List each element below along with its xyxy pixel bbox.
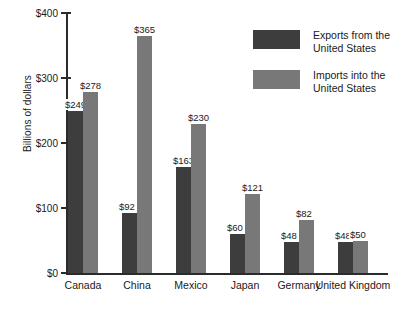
bar-value-label: $82	[295, 208, 313, 219]
bar-imports	[83, 92, 98, 273]
legend-label-exports: Exports from the United States	[313, 29, 395, 54]
y-tick-label: $200	[36, 138, 58, 149]
y-tick-label: $300	[36, 73, 58, 84]
bar-imports	[191, 124, 206, 274]
bar-group: $249$278	[68, 13, 98, 273]
bar-value-label: $60	[226, 222, 244, 233]
y-tick-label: $400	[36, 8, 58, 19]
category-label: United Kingdom	[315, 279, 391, 292]
bar-group: $92$365	[122, 13, 152, 273]
legend-label-imports: Imports into the United States	[313, 69, 395, 94]
bar-value-label: $121	[241, 182, 264, 193]
bar-exports	[176, 167, 191, 273]
legend-swatch-imports	[253, 70, 300, 89]
bar-group: $163$230	[176, 13, 206, 273]
bar-imports	[299, 220, 314, 273]
bar-value-label: $278	[79, 80, 102, 91]
y-tick-label: $100	[36, 203, 58, 214]
legend-swatch-exports	[253, 30, 300, 49]
bar-exports	[284, 242, 299, 273]
bar-group: $48$82	[284, 13, 314, 273]
bar-imports	[353, 241, 368, 274]
bar-chart: Billions of dollars $400$300$200$100$0 $…	[0, 0, 395, 313]
x-axis-line	[66, 273, 388, 275]
bar-value-label: $48	[280, 230, 298, 241]
bar-imports	[245, 194, 260, 273]
bar-value-label: $230	[187, 112, 210, 123]
bar-group: $60$121	[230, 13, 260, 273]
bar-exports	[122, 213, 137, 273]
bar-imports	[137, 36, 152, 273]
y-tick-label: $0	[47, 268, 58, 279]
bar-value-label: $50	[349, 229, 367, 240]
bar-value-label: $365	[133, 24, 156, 35]
bar-value-label: $92	[118, 201, 136, 212]
bar-exports	[68, 111, 83, 273]
bar-exports	[338, 242, 353, 273]
bar-exports	[230, 234, 245, 273]
y-axis-title: Billions of dollars	[22, 39, 33, 189]
